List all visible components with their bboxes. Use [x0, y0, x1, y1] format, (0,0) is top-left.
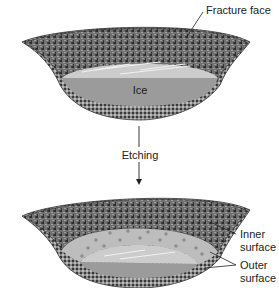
- fracture-face-label: Fracture face: [206, 4, 271, 16]
- ice-label: Ice: [133, 84, 148, 96]
- inner-surface-label-2: surface: [240, 241, 276, 253]
- outer-surface-label-1: Outer: [240, 259, 268, 271]
- freeze-etching-diagram: Ice Fracture face Etching Inner sur: [0, 0, 279, 288]
- outer-surface-label-2: surface: [240, 272, 276, 284]
- etching-arrow: Etching: [122, 126, 159, 185]
- etching-label: Etching: [122, 149, 159, 161]
- inner-surface-label-1: Inner: [240, 228, 265, 240]
- bottom-vesicle: Inner surface Outer surface: [22, 198, 276, 288]
- arrow-head-icon: [136, 179, 142, 185]
- top-vesicle: Ice Fracture face: [22, 4, 271, 120]
